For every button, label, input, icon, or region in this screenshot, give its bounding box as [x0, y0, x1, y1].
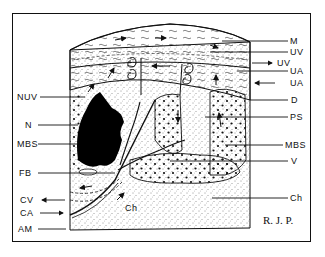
label-UA-inflow: UA: [290, 78, 304, 88]
label-UA: UA: [290, 66, 304, 76]
label-D: D: [291, 95, 298, 105]
label-UV-outflow: UV: [277, 58, 291, 68]
label-AM: AM: [18, 224, 33, 234]
label-Ch-right: Ch: [290, 193, 303, 203]
tissue-block: [70, 24, 250, 230]
label-Ch-inner: Ch: [125, 203, 138, 213]
label-N: N: [25, 120, 32, 130]
label-CA: CA: [20, 208, 34, 218]
label-V: V: [291, 156, 298, 166]
label-MBS-right: MBS: [285, 140, 306, 150]
label-PS: PS: [290, 112, 303, 122]
label-MBS-left: MBS: [17, 139, 38, 149]
author-signature: R. J. P.: [263, 214, 293, 226]
label-FB: FB: [19, 168, 32, 178]
label-NUV: NUV: [17, 92, 38, 102]
label-CV: CV: [20, 195, 34, 205]
label-M: M: [290, 36, 298, 46]
label-UV: UV: [290, 47, 304, 57]
